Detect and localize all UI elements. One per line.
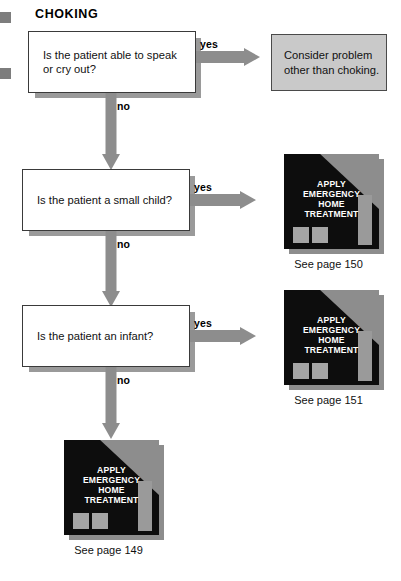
treatment-icon-150-line4: TREATMENT bbox=[304, 209, 358, 219]
treatment-icon-149-body: APPLY EMERGENCY HOME TREATMENT bbox=[64, 440, 159, 535]
decision-box-speak: Is the patient able to speak or cry out? bbox=[28, 31, 196, 93]
arrow-label-yes-infant: yes bbox=[194, 317, 212, 329]
decision-box-infant-text: Is the patient an infant? bbox=[23, 329, 161, 343]
edge-mark-top bbox=[0, 12, 11, 23]
treatment-icon-149-line2: EMERGENCY bbox=[83, 475, 140, 485]
treatment-icon-149-line1: APPLY bbox=[97, 465, 126, 475]
decision-box-infant: Is the patient an infant? bbox=[22, 305, 190, 367]
arrow-yes-infant-head bbox=[240, 327, 256, 345]
arrow-no-speak-head bbox=[102, 154, 120, 170]
house-window-left-icon bbox=[73, 513, 89, 529]
arrow-label-no-speak: no bbox=[117, 100, 130, 112]
arrow-yes-speak-stem bbox=[196, 51, 246, 63]
arrow-yes-speak-head bbox=[244, 48, 260, 66]
house-window-left-icon bbox=[293, 227, 309, 243]
outcome-box-line1: Consider problem bbox=[284, 49, 372, 61]
choking-flowchart: CHOKING Is the patient able to speak or … bbox=[0, 0, 401, 581]
treatment-icon-150-text: APPLY EMERGENCY HOME TREATMENT bbox=[284, 179, 379, 220]
arrow-no-speak-stem bbox=[106, 93, 117, 156]
arrow-label-no-infant: no bbox=[117, 374, 130, 386]
arrow-label-yes-small-child: yes bbox=[194, 181, 212, 193]
treatment-icon-151-line4: TREATMENT bbox=[304, 345, 358, 355]
treatment-icon-151-body: APPLY EMERGENCY HOME TREATMENT bbox=[284, 290, 379, 385]
house-window-right-icon bbox=[92, 513, 108, 529]
arrow-yes-small-child bbox=[190, 194, 260, 206]
arrow-yes-small-child-head bbox=[240, 191, 256, 209]
arrow-label-no-small-child: no bbox=[117, 238, 130, 250]
arrow-yes-infant-stem bbox=[190, 330, 242, 342]
decision-box-small-child: Is the patient a small child? bbox=[22, 169, 190, 231]
treatment-icon-149: APPLY EMERGENCY HOME TREATMENT See page … bbox=[64, 440, 159, 535]
decision-box-speak-line1: Is the patient able to speak bbox=[43, 49, 177, 61]
outcome-box-line2: other than choking. bbox=[284, 64, 379, 76]
treatment-icon-151-line2: EMERGENCY bbox=[303, 325, 360, 335]
arrow-yes-infant bbox=[190, 330, 260, 342]
page-title: CHOKING bbox=[35, 7, 98, 21]
treatment-icon-150: APPLY EMERGENCY HOME TREATMENT See page … bbox=[284, 154, 379, 249]
treatment-icon-151-caption: See page 151 bbox=[281, 394, 376, 406]
decision-box-small-child-text: Is the patient a small child? bbox=[23, 193, 180, 207]
arrow-no-small-child-stem bbox=[106, 231, 117, 293]
treatment-icon-149-text: APPLY EMERGENCY HOME TREATMENT bbox=[64, 465, 159, 506]
treatment-icon-151-text: APPLY EMERGENCY HOME TREATMENT bbox=[284, 315, 379, 356]
edge-mark-bottom bbox=[0, 68, 11, 79]
treatment-icon-149-caption: See page 149 bbox=[61, 544, 156, 556]
arrow-no-infant-stem bbox=[106, 367, 117, 425]
treatment-icon-150-line2: EMERGENCY bbox=[303, 189, 360, 199]
treatment-icon-150-body: APPLY EMERGENCY HOME TREATMENT bbox=[284, 154, 379, 249]
arrow-yes-small-child-stem bbox=[190, 194, 242, 206]
arrow-label-yes-speak: yes bbox=[200, 38, 218, 50]
treatment-icon-149-line4: TREATMENT bbox=[84, 495, 138, 505]
treatment-icon-151-line3: HOME bbox=[318, 335, 345, 345]
house-window-right-icon bbox=[312, 363, 328, 379]
treatment-icon-151-line1: APPLY bbox=[317, 315, 346, 325]
treatment-icon-150-caption: See page 150 bbox=[281, 258, 376, 270]
treatment-icon-151: APPLY EMERGENCY HOME TREATMENT See page … bbox=[284, 290, 379, 385]
decision-box-speak-line2: or cry out? bbox=[43, 63, 96, 75]
treatment-icon-150-line3: HOME bbox=[318, 199, 345, 209]
arrow-yes-speak bbox=[196, 51, 262, 63]
decision-box-speak-text: Is the patient able to speak or cry out? bbox=[29, 48, 185, 76]
outcome-box-text: Consider problem other than choking. bbox=[272, 48, 379, 78]
house-window-left-icon bbox=[293, 363, 309, 379]
treatment-icon-150-line1: APPLY bbox=[317, 179, 346, 189]
house-window-right-icon bbox=[312, 227, 328, 243]
arrow-no-infant-head bbox=[102, 423, 120, 439]
outcome-box-consider-other: Consider problem other than choking. bbox=[271, 34, 387, 91]
treatment-icon-149-line3: HOME bbox=[98, 485, 125, 495]
